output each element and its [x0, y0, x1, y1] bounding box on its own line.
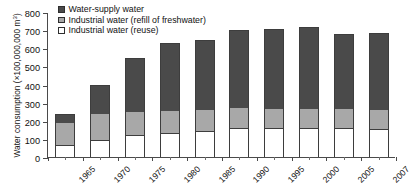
- bar-segment-refill: [264, 109, 284, 128]
- bar-segment-refill: [195, 110, 215, 131]
- y-axis-title-exponent: 3: [12, 16, 18, 19]
- y-axis-tick-label: 400: [25, 82, 40, 92]
- bar-1985: [195, 40, 215, 157]
- bar-segment-supply: [264, 29, 284, 109]
- bar-segment-refill: [55, 123, 75, 146]
- x-axis-minor-tick: [170, 157, 171, 160]
- x-axis-tick-label: 1985: [216, 164, 237, 185]
- bar-segment-supply: [299, 27, 319, 109]
- bar-segment-refill: [160, 111, 180, 134]
- bar-segment-reuse: [90, 140, 110, 157]
- bar-segment-supply: [369, 33, 389, 110]
- y-axis-title-text: Water consumption (×100,000,000 m: [13, 20, 22, 158]
- plot-area: 0100200300400500600700800196519701975198…: [47, 13, 395, 158]
- bar-segment-reuse: [125, 135, 145, 157]
- y-axis-tick: 100: [43, 140, 48, 141]
- x-axis-tick-label: 2007: [390, 164, 411, 185]
- y-axis-tick-label: 0: [35, 154, 40, 164]
- y-axis-tick-label: 100: [25, 136, 40, 146]
- bar-segment-reuse: [264, 128, 284, 157]
- y-axis-title: Water consumption (×100,000,000 m3): [12, 10, 23, 160]
- x-axis-tick-label: 1990: [251, 164, 272, 185]
- bar-segment-refill: [299, 109, 319, 128]
- y-axis-tick-label: 800: [25, 9, 40, 19]
- bar-segment-supply: [125, 58, 145, 111]
- y-axis-tick: 200: [43, 122, 48, 123]
- bar-segment-reuse: [160, 133, 180, 157]
- y-axis-tick: 600: [43, 49, 48, 50]
- x-axis-tick-label: 1970: [112, 164, 133, 185]
- x-axis-tick: [152, 157, 153, 161]
- bar-segment-supply: [160, 43, 180, 111]
- bar-segment-supply: [90, 85, 110, 114]
- bar-segment-supply: [195, 40, 215, 110]
- bar-2000: [299, 27, 319, 157]
- bar-segment-supply: [55, 114, 75, 122]
- x-axis-tick: [292, 157, 293, 161]
- y-axis-tick: 800: [43, 13, 48, 14]
- x-axis-tick: [187, 157, 188, 161]
- bar-1975: [125, 58, 145, 157]
- y-axis-title-tail: ): [13, 13, 22, 16]
- y-axis-tick: 500: [43, 67, 48, 68]
- x-axis-tick: [326, 157, 327, 161]
- x-axis-minor-tick: [135, 157, 136, 160]
- bar-segment-refill: [125, 112, 145, 136]
- x-axis-tick-label: 1995: [286, 164, 307, 185]
- x-axis-minor-tick: [309, 157, 310, 160]
- x-axis-tick: [257, 157, 258, 161]
- bar-segment-reuse: [299, 128, 319, 157]
- x-axis-tick: [222, 157, 223, 161]
- bar-segment-supply: [334, 34, 354, 109]
- bar-1995: [264, 29, 284, 157]
- y-axis-tick: 300: [43, 104, 48, 105]
- bar-2005: [334, 34, 354, 157]
- bar-segment-reuse: [369, 129, 389, 157]
- y-axis-tick: 700: [43, 31, 48, 32]
- legend-swatch-icon-supply: [58, 6, 65, 13]
- y-axis-tick-label: 200: [25, 118, 40, 128]
- bar-1990: [229, 30, 249, 157]
- y-axis-tick-label: 300: [25, 100, 40, 110]
- x-axis-tick-label: 2000: [321, 164, 342, 185]
- x-axis-minor-tick: [100, 157, 101, 160]
- x-axis-tick-label: 1975: [147, 164, 168, 185]
- bar-segment-refill: [334, 109, 354, 128]
- y-axis-tick-label: 700: [25, 27, 40, 37]
- bar-1965: [55, 114, 75, 157]
- bar-segment-supply: [229, 30, 249, 108]
- bar-segment-refill: [369, 110, 389, 129]
- bar-segment-reuse: [195, 131, 215, 157]
- x-axis-tick: [118, 157, 119, 161]
- bar-1980: [160, 43, 180, 157]
- y-axis-tick-label: 500: [25, 63, 40, 73]
- x-axis-tick-label: 1965: [77, 164, 98, 185]
- x-axis-tick-label: 2005: [355, 164, 376, 185]
- x-axis-tick-label: 1980: [181, 164, 202, 185]
- bar-segment-refill: [229, 108, 249, 128]
- y-axis-tick: 400: [43, 86, 48, 87]
- bar-1970: [90, 85, 110, 158]
- x-axis-minor-tick: [379, 157, 380, 160]
- x-axis-minor-tick: [65, 157, 66, 160]
- bar-segment-refill: [90, 114, 110, 140]
- x-axis-tick: [83, 157, 84, 161]
- x-axis-minor-tick: [239, 157, 240, 160]
- bar-segment-reuse: [229, 128, 249, 157]
- y-axis-tick-label: 600: [25, 45, 40, 55]
- x-axis-tick: [396, 157, 397, 161]
- x-axis-tick: [48, 157, 49, 161]
- x-axis-minor-tick: [344, 157, 345, 160]
- x-axis-tick: [361, 157, 362, 161]
- bar-2007: [369, 33, 389, 157]
- bar-segment-reuse: [55, 145, 75, 157]
- bar-segment-reuse: [334, 128, 354, 157]
- x-axis-minor-tick: [205, 157, 206, 160]
- x-axis-minor-tick: [274, 157, 275, 160]
